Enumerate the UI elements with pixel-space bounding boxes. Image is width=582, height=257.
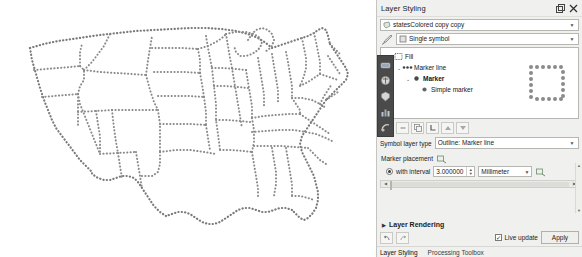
remove-symbol-layer-button[interactable] [396,122,409,134]
checkbox-checked-icon: ✓ [495,234,502,241]
dock-tabs: Layer Styling Processing Toolbox [377,246,582,257]
symbol-layer-type-label: Symbol layer type [380,140,432,147]
undo-icon[interactable] [380,232,393,244]
qgis-window: .bd{fill:none;stroke:#7a7a7a;stroke-widt… [0,0,582,257]
tree-label: Fill [405,53,413,60]
twisty-expanded-icon[interactable]: ⌄ [395,65,402,71]
properties-hscrollbar[interactable]: ◀ ▶ [380,180,579,188]
symbol-layer-type-value: Outline: Marker line [438,138,568,148]
interval-option-row: with interval 3.000000 ▲▼ Millimeter ▼ [386,166,579,177]
panel-title-text: Layer Styling [381,4,553,13]
move-down-button[interactable] [456,122,469,134]
chevron-down-icon: ▼ [524,169,529,175]
tree-label: Simple marker [431,86,473,93]
tree-label: Marker [423,75,444,82]
map-canvas[interactable]: .bd{fill:none;stroke:#7a7a7a;stroke-widt… [0,0,376,257]
panel-content: statesColored copy copy ▼ Single symbol … [377,17,582,246]
tree-node-simple-marker[interactable]: Simple marker [383,84,516,95]
chevron-down-icon: ▼ [568,138,576,148]
panel-vscrollbar[interactable]: ▲ ▼ [575,163,582,213]
layer-selector-value: statesColored copy copy [393,20,568,30]
marker-icon [411,74,422,83]
tree-node-marker-line[interactable]: ⌄ Marker line [383,62,516,73]
tree-node-fill[interactable]: ⌄ Fill [383,51,516,62]
interval-data-defined-override-icon[interactable] [535,166,546,177]
twisty-expanded-icon[interactable]: ⌄ [404,76,411,82]
styling-mode-rail [377,55,394,137]
duplicate-symbol-layer-button[interactable] [411,122,424,134]
data-defined-override-icon[interactable] [436,153,447,164]
scroll-up-icon[interactable]: ▲ [577,163,581,168]
marker-line-icon [402,63,413,72]
labels-icon[interactable] [379,74,393,89]
masks-icon[interactable] [379,89,393,104]
move-up-button[interactable] [441,122,454,134]
layer-styling-panel: Layer Styling [376,0,582,257]
tab-layer-styling[interactable]: Layer Styling [380,249,418,256]
close-button[interactable] [568,3,579,14]
undock-button[interactable] [555,3,566,14]
polygon-layer-icon [383,21,391,29]
paintbrush-icon [380,33,393,45]
apply-button[interactable]: Apply [541,231,579,244]
interval-unit-select[interactable]: Millimeter ▼ [478,166,532,177]
tree-node-marker[interactable]: ⌄ Marker [383,73,516,84]
renderer-row: Single symbol ▼ [380,33,579,45]
interval-spinbox[interactable]: 3.000000 ▲▼ [433,166,475,177]
spinner-arrows-icon[interactable]: ▲▼ [466,167,474,176]
tree-label: Marker line [414,64,446,71]
symbol-layer-type-select[interactable]: Outline: Marker line ▼ [435,137,579,149]
fill-icon [393,52,404,61]
renderer-selector[interactable]: Single symbol ▼ [396,33,579,45]
with-interval-radio[interactable] [386,168,393,175]
live-update-checkbox[interactable]: ✓ Live update [495,234,538,241]
live-update-label: Live update [504,234,538,241]
hscroll-track[interactable] [390,182,569,187]
layer-rendering-label: Layer Rendering [389,221,444,228]
marker-placement-section: Marker placement [381,153,579,164]
layer-selector[interactable]: statesColored copy copy ▼ [380,19,579,31]
panel-spacer [380,190,579,219]
marker-placement-label: Marker placement [381,155,433,162]
symbol-layer-toolbar [380,122,579,134]
symbol-preview-graphic [523,59,571,107]
interval-unit-value: Millimeter [481,167,524,176]
history-icon[interactable] [379,120,393,135]
panel-body: statesColored copy copy ▼ Single symbol … [377,17,582,246]
symbology-icon[interactable] [379,58,393,73]
simple-marker-icon [419,85,430,94]
symbol-layer-tree-area: ⌄ Fill ⌄ Marker line [380,47,579,119]
symbol-layer-type-row: Symbol layer type Outline: Marker line ▼ [380,137,579,149]
tab-processing-toolbox[interactable]: Processing Toolbox [428,249,484,256]
panel-title-bar: Layer Styling [377,0,582,17]
chevron-down-icon: ▼ [568,34,576,44]
symbol-preview [516,48,578,118]
renderer-selector-value: Single symbol [409,34,568,44]
with-interval-label: with interval [396,168,430,175]
panel-footer: ✓ Live update Apply [380,231,579,244]
lock-symbol-layer-button[interactable] [426,122,439,134]
us-states-dotted-map: .bd{fill:none;stroke:#7a7a7a;stroke-widt… [0,0,376,257]
redo-icon[interactable] [396,232,409,244]
chevron-down-icon: ▼ [568,20,576,30]
scroll-left-icon[interactable]: ◀ [381,181,389,187]
layer-rendering-section[interactable]: ▶ Layer Rendering [382,221,579,228]
symbol-layer-tree: ⌄ Fill ⌄ Marker line [381,48,516,118]
diagrams-icon[interactable] [379,105,393,120]
hscroll-thumb[interactable] [390,181,392,190]
chevron-right-icon: ▶ [382,222,386,228]
single-symbol-icon [399,35,407,43]
scroll-down-icon[interactable]: ▼ [577,208,581,213]
interval-value: 3.000000 [436,167,466,176]
